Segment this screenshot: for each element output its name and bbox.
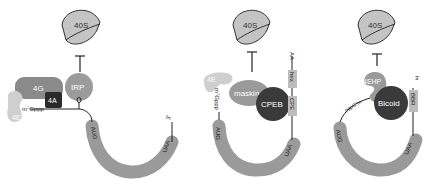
polya-tail-label: AA bbox=[289, 52, 295, 60]
panel-bicoid: 40S 4EHP Bicoid BBR 3' pppG⁷m AUG UAA bbox=[335, 10, 419, 170]
protein-irp-label: IRP bbox=[71, 83, 84, 92]
bbr-label: BBR bbox=[410, 93, 416, 106]
translation-repression-diagram: 40S 4G 4E 4A m⁷Gppp IRP AUG UAA 3' bbox=[0, 0, 426, 179]
inhibition-bar-icon bbox=[372, 54, 382, 66]
start-codon-label: AUG bbox=[215, 127, 221, 140]
cpe-label: CPE bbox=[289, 98, 295, 110]
ribosome-label: 40S bbox=[243, 21, 257, 30]
protein-4a-label: 4A bbox=[48, 97, 57, 104]
ribosome-40s-icon: 40S bbox=[358, 10, 395, 44]
protein-maskin-label: maskin bbox=[234, 89, 259, 98]
protein-bicoid-label: Bicoid bbox=[378, 99, 400, 108]
protein-4g-label: 4G bbox=[33, 84, 44, 93]
protein-cpeb-label: CPEB bbox=[261, 100, 283, 109]
protein-4e-label: 4E bbox=[207, 76, 216, 83]
mrna-strand bbox=[92, 126, 172, 172]
cap-label: m⁷Gppp bbox=[22, 106, 45, 112]
protein-4e-label: 4E bbox=[12, 114, 21, 121]
ribosome-40s-icon: 40S bbox=[233, 10, 270, 44]
ribosome-40s-icon: 40S bbox=[62, 10, 100, 44]
three-prime-label: 3' bbox=[415, 75, 419, 81]
cap-label: pppG⁷m bbox=[344, 99, 363, 113]
cap-label: m⁷Gppp bbox=[214, 88, 220, 111]
panel-irp: 40S 4G 4E 4A m⁷Gppp IRP AUG UAA 3' bbox=[7, 10, 172, 172]
protein-4ehp-label: 4EHP bbox=[363, 78, 382, 85]
ribosome-label: 40S bbox=[74, 21, 88, 30]
three-prime-label: 3' bbox=[165, 115, 172, 120]
mrna-strand bbox=[219, 126, 294, 170]
inhibition-bar-icon bbox=[75, 56, 85, 72]
inhibition-bar-icon bbox=[247, 52, 257, 72]
panel-cpeb: 40S 4E m⁷Gppp maskin CPEB CPE hex AA AUG… bbox=[204, 10, 297, 170]
ribosome-label: 40S bbox=[368, 21, 382, 30]
hex-label: hex bbox=[289, 72, 295, 82]
